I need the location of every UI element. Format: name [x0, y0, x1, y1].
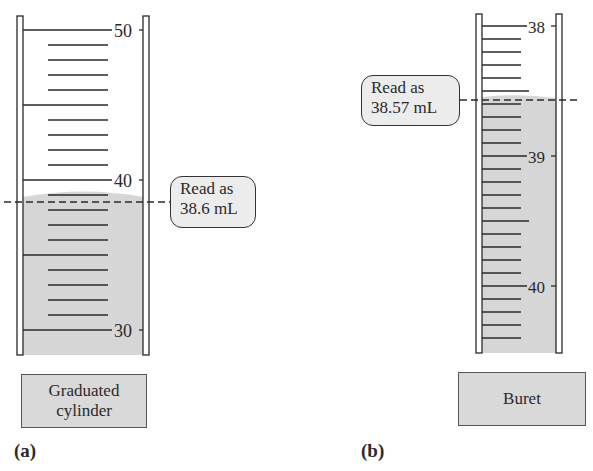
buret-name: Buret — [503, 389, 541, 409]
panel-label-a: (a) — [14, 440, 36, 462]
buret-reading-callout: Read as 38.57 mL — [361, 75, 460, 126]
cylinder-label-40: 40 — [114, 171, 132, 191]
cylinder-reading-callout: Read as 38.6 mL — [170, 176, 256, 228]
cylinder-name-box: Graduated cylinder — [21, 374, 147, 428]
callout-line-1: Read as — [371, 78, 450, 98]
callout-line-2: 38.6 mL — [180, 199, 246, 219]
buret-label-40: 40 — [528, 278, 545, 297]
buret-name-box: Buret — [458, 372, 586, 426]
buret-label-38: 38 — [528, 18, 545, 37]
buret-left-wall — [476, 14, 482, 353]
cylinder-label-30: 30 — [114, 321, 132, 341]
callout-line-2: 38.57 mL — [371, 98, 450, 118]
cylinder-label-50: 50 — [114, 21, 132, 41]
callout-line-1: Read as — [180, 179, 246, 199]
cylinder-left-wall — [17, 16, 23, 355]
buret-right-wall — [556, 14, 562, 353]
buret: 38 39 40 — [460, 14, 578, 353]
buret-liquid — [482, 95, 556, 353]
buret-label-39: 39 — [528, 148, 545, 167]
graduated-cylinder: 50 40 30 — [4, 16, 172, 355]
panel-label-b: (b) — [361, 440, 384, 462]
cylinder-name-line-2: cylinder — [56, 401, 112, 421]
cylinder-right-wall — [143, 16, 149, 355]
cylinder-name-line-1: Graduated — [49, 381, 120, 401]
